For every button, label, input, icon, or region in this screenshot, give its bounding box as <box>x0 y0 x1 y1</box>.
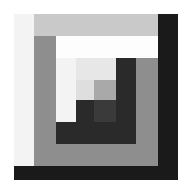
log-ring3-left <box>56 58 76 122</box>
log-ring2-left <box>34 36 56 144</box>
image-canvas <box>0 0 192 194</box>
log-ring1-bottom <box>14 166 178 180</box>
log-ring1-right <box>158 14 178 166</box>
log-ring2-top <box>56 36 158 58</box>
log-ring4-right <box>94 100 116 122</box>
log-ring4-bottom <box>76 100 94 122</box>
log-ring1-top <box>34 14 158 36</box>
log-ring1-left <box>14 14 34 166</box>
log-ring3-bottom <box>56 122 136 144</box>
log-cabin-block <box>14 14 178 180</box>
log-ring2-bottom <box>34 144 158 166</box>
log-ring4-top <box>94 80 116 100</box>
